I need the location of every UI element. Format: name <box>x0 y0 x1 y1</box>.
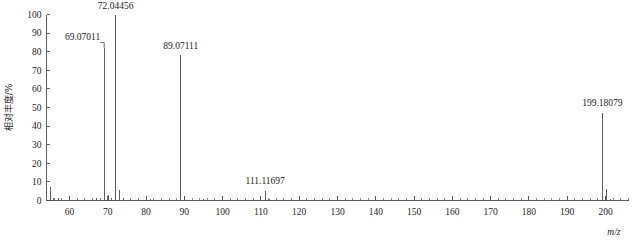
x-tick-label-160: 160 <box>445 207 460 217</box>
y-tick-label-30: 30 <box>32 140 42 150</box>
mass-spectrum-figure: 0102030405060708090100607080901001101201… <box>0 0 638 244</box>
x-tick-label-120: 120 <box>292 207 307 217</box>
x-tick-label-100: 100 <box>216 207 231 217</box>
peak-label-72.04456: 72.04456 <box>98 1 134 11</box>
x-tick-label-70: 70 <box>103 207 113 217</box>
peak-label-199.18079: 199.18079 <box>582 98 623 108</box>
x-tick-label-190: 190 <box>560 207 575 217</box>
axis-tick-labels: 0102030405060708090100607080901001101201… <box>27 10 613 217</box>
x-tick-label-80: 80 <box>141 207 151 217</box>
x-tick-label-90: 90 <box>180 207 190 217</box>
x-tick-label-200: 200 <box>598 207 613 217</box>
spectrum-svg: 0102030405060708090100607080901001101201… <box>0 0 638 244</box>
x-tick-label-140: 140 <box>369 207 384 217</box>
y-tick-label-50: 50 <box>32 103 42 113</box>
peak-label-89.07111: 89.07111 <box>163 41 198 51</box>
y-tick-label-40: 40 <box>32 121 42 131</box>
x-tick-label-170: 170 <box>484 207 499 217</box>
peak-label-111.11697: 111.11697 <box>246 176 286 186</box>
y-tick-label-10: 10 <box>32 177 42 187</box>
peak-label-69.07011: 69.07011 <box>65 32 101 42</box>
y-axis-title: 相对丰度/% <box>3 83 14 131</box>
x-tick-label-150: 150 <box>407 207 422 217</box>
plot-area: 0102030405060708090100607080901001101201… <box>0 0 638 244</box>
peak-label-leader <box>100 42 104 48</box>
x-tick-label-60: 60 <box>65 207 75 217</box>
y-tick-label-80: 80 <box>32 47 42 57</box>
y-tick-label-60: 60 <box>32 84 42 94</box>
peak-labels: 69.0701172.0445689.07111111.11697199.180… <box>65 1 623 187</box>
x-tick-label-130: 130 <box>330 207 345 217</box>
y-tick-label-0: 0 <box>37 196 42 206</box>
axis-ticks <box>47 15 629 201</box>
peak-series <box>51 15 611 201</box>
axes <box>47 15 629 201</box>
x-axis-title: m/z <box>607 227 621 237</box>
y-tick-label-100: 100 <box>27 10 42 20</box>
y-tick-label-90: 90 <box>32 28 42 38</box>
y-tick-label-20: 20 <box>32 159 42 169</box>
y-tick-label-70: 70 <box>32 66 42 76</box>
x-tick-label-180: 180 <box>522 207 537 217</box>
x-tick-label-110: 110 <box>254 207 268 217</box>
